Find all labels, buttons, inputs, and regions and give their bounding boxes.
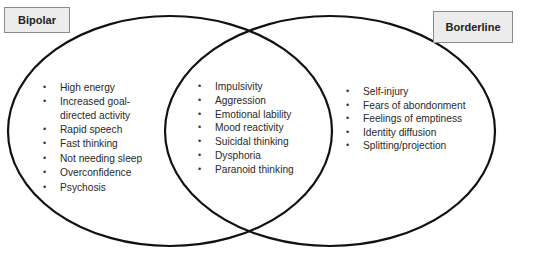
list-item: High energy [40, 81, 160, 94]
list-item: Feelings of emptiness [343, 112, 493, 125]
list-item: Suicidal thinking [195, 135, 325, 148]
list-item: Fast thinking [40, 137, 160, 150]
list-item: Self-injury [343, 85, 493, 98]
overlap-items-list: Impulsivity Aggression Emotional labilit… [195, 80, 325, 177]
list-item: Increased goal-directed activity [40, 95, 140, 121]
list-item: Mood reactivity [195, 121, 325, 134]
list-item: Splitting/projection [343, 139, 493, 152]
bipolar-label: Bipolar [4, 7, 70, 33]
list-item: Identity diffusion [343, 126, 493, 139]
borderline-items-list: Self-injury Fears of abondonment Feeling… [343, 85, 493, 153]
list-item: Rapid speech [40, 123, 160, 136]
list-item: Not needing sleep [40, 152, 160, 165]
borderline-label: Borderline [433, 11, 513, 43]
list-item: Impulsivity [195, 80, 325, 93]
list-item: Fears of abondonment [343, 99, 493, 112]
list-item: Psychosis [40, 181, 160, 194]
list-item: Emotional lability [195, 108, 325, 121]
list-item: Dysphoria [195, 149, 325, 162]
list-item: Aggression [195, 94, 325, 107]
list-item: Paranoid thinking [195, 163, 325, 176]
list-item: Overconfidence [40, 166, 160, 179]
bipolar-items-list: High energy Increased goal-directed acti… [40, 81, 160, 195]
